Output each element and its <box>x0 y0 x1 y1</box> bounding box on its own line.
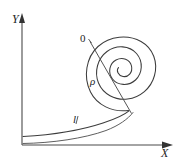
figure-container: Y X 0 ρ l <box>0 0 185 168</box>
spiral-curve <box>86 37 155 111</box>
spiral-pole-label: 0 <box>80 33 86 44</box>
y-axis-arrowhead <box>19 13 25 23</box>
y-axis-label: Y <box>12 13 19 25</box>
involute-curve-label: l <box>73 114 76 125</box>
radius-label: ρ <box>90 76 95 87</box>
x-axis-label: X <box>161 147 168 159</box>
involute-label-tick <box>76 116 78 124</box>
radius-vector-line <box>90 42 132 114</box>
